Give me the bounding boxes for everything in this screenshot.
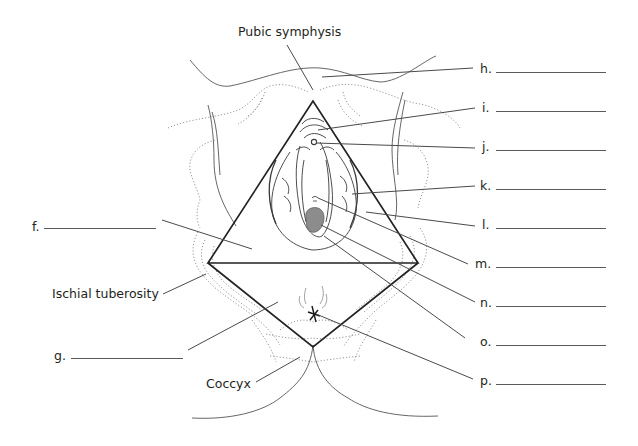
anal-triangle [208,263,418,347]
anatomy-illustration [0,0,638,446]
blank-letter-f: f. [32,220,39,234]
anus-mark [308,306,320,322]
blank-letter-n: n. [480,296,492,310]
blank-letter-m: m. [475,257,491,271]
answer-blank-l[interactable] [496,228,606,229]
blank-letter-l: l. [482,218,489,232]
vaginal-orifice [306,207,324,232]
answer-blank-m[interactable] [496,267,606,268]
blank-letter-i: i. [482,101,489,115]
answer-blank-n[interactable] [496,306,606,307]
answer-blank-k[interactable] [496,189,606,190]
answer-blank-h[interactable] [496,72,606,73]
label-coccyx: Coccyx [206,377,251,391]
blank-letter-h: h. [480,62,492,76]
perineum-diagram: Pubic symphysis Ischial tuberosity Coccy… [0,0,638,446]
blank-letter-k: k. [480,179,491,193]
blank-letter-o: o. [480,335,491,349]
anal-folds [299,286,327,308]
answer-blank-f[interactable] [44,228,156,229]
blank-letter-p: p. [480,374,492,388]
answer-blank-g[interactable] [71,358,183,359]
answer-blank-o[interactable] [496,345,606,346]
answer-blank-p[interactable] [496,384,606,385]
blank-letter-j: j. [482,140,489,154]
blank-letter-g: g. [54,349,66,363]
answer-blank-i[interactable] [496,111,606,112]
answer-blank-j[interactable] [496,150,606,151]
label-pubic-symphysis: Pubic symphysis [238,25,341,39]
label-ischial-tuberosity: Ischial tuberosity [52,287,159,301]
